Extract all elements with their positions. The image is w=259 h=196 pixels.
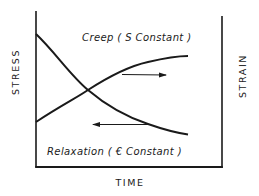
relaxation-curve <box>36 34 188 135</box>
stress-axis-label: STRESS <box>10 49 21 95</box>
strain-axis-label: STRAIN <box>237 54 248 98</box>
arrow-right-icon <box>122 75 166 76</box>
creep-curve <box>36 56 188 122</box>
creep-relaxation-diagram: Creep ( S Constant ) Relaxation ( € Cons… <box>0 0 259 196</box>
creep-label: Creep ( S Constant ) <box>82 32 192 43</box>
relaxation-label: Relaxation ( € Constant ) <box>47 146 182 157</box>
time-axis-label: TIME <box>114 177 144 188</box>
